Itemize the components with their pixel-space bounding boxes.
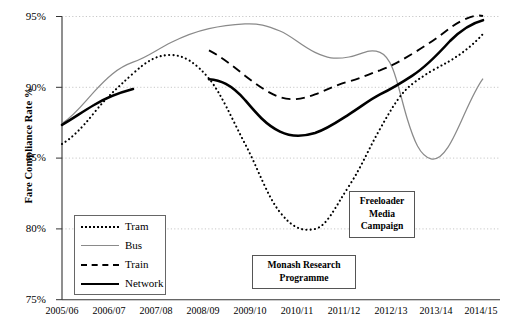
annotation-monash-line1: Monash Research	[257, 259, 351, 272]
annotation-freeloader-line3: Campaign	[354, 220, 410, 233]
annotation-freeloader-line2: Media	[354, 208, 410, 221]
x-tick-2007-08: 2007/08	[129, 305, 183, 316]
legend-label-tram: Tram	[119, 220, 148, 232]
annotation-monash-research-programme: Monash Research Programme	[252, 255, 356, 289]
legend-item-tram: Tram	[75, 216, 165, 235]
legend-label-network: Network	[119, 277, 164, 289]
x-tick-2006-07: 2006/07	[82, 305, 136, 316]
series-line-network	[209, 20, 483, 136]
chart-legend: Tram Bus Train Network	[74, 215, 166, 295]
series-line-tram	[62, 34, 483, 230]
y-tick-85: 85%	[8, 151, 46, 163]
legend-item-train: Train	[75, 254, 165, 273]
y-tick-75: 75%	[8, 293, 46, 305]
x-tick-2008-09: 2008/09	[176, 305, 230, 316]
y-tick-80: 80%	[8, 222, 46, 234]
x-tick-2011-12: 2011/12	[317, 305, 371, 316]
network-line-swatch	[81, 277, 119, 289]
annotation-freeloader-media-campaign: Freeloader Media Campaign	[349, 191, 415, 238]
annotation-freeloader-line1: Freeloader	[354, 195, 410, 208]
series-line-network-early	[62, 89, 133, 125]
legend-item-network: Network	[75, 273, 165, 292]
x-tick-2009-10: 2009/10	[223, 305, 277, 316]
tram-line-swatch	[81, 220, 119, 232]
fare-compliance-chart: Fare Compliance Rate % 95% 90% 85% 80% 7…	[0, 0, 510, 334]
x-tick-2005-06: 2005/06	[35, 305, 89, 316]
y-tickmarks	[56, 17, 62, 300]
legend-label-bus: Bus	[119, 239, 142, 251]
x-tick-2014-15: 2014/15	[454, 305, 508, 316]
annotation-monash-line2: Programme	[257, 272, 351, 285]
gridlines	[62, 17, 500, 229]
train-line-swatch	[81, 258, 119, 270]
bus-line-swatch	[81, 239, 119, 251]
y-tick-95: 95%	[8, 10, 46, 22]
x-tick-2010-11: 2010/11	[270, 305, 324, 316]
legend-label-train: Train	[119, 258, 148, 270]
legend-item-bus: Bus	[75, 235, 165, 254]
y-tick-90: 90%	[8, 81, 46, 93]
